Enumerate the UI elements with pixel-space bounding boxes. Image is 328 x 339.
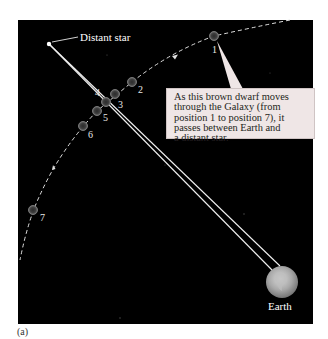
distant-star-icon — [47, 42, 51, 46]
brown-dwarf-icon — [93, 107, 102, 116]
panel-label: (a) — [17, 326, 28, 337]
position-label-2: 2 — [138, 84, 143, 95]
position-label-4: 4 — [95, 87, 100, 98]
brown-dwarf-icon — [210, 32, 219, 41]
callout-line: a distant star. — [174, 133, 314, 143]
distant-star-label: Distant star — [80, 31, 131, 43]
position-label-1: 1 — [212, 44, 217, 55]
brown-dwarf-icon — [111, 90, 120, 99]
diagram-canvas: Distant star 1 2 3 4 5 6 7 — [0, 0, 328, 339]
position-label-7: 7 — [40, 212, 45, 223]
brown-dwarf-icon — [79, 122, 88, 131]
brown-dwarf-icon — [102, 98, 111, 107]
earth-label: Earth — [268, 300, 292, 312]
position-label-3: 3 — [118, 99, 123, 110]
position-label-5: 5 — [103, 112, 108, 123]
brown-dwarf-icon — [29, 206, 38, 215]
position-label-6: 6 — [88, 129, 93, 140]
explanation-callout: As this brown dwarf moves through the Ga… — [166, 88, 315, 139]
brown-dwarf-icon — [128, 78, 137, 87]
brown-dwarf-microlensing-diagram: Distant star 1 2 3 4 5 6 7 — [0, 0, 328, 339]
